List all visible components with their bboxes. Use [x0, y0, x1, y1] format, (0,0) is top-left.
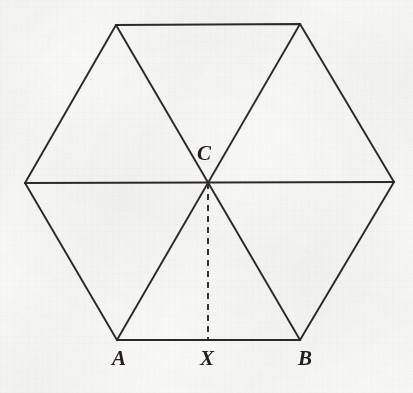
label-X: X [200, 348, 214, 369]
geometry-figure: C A X B [0, 0, 413, 393]
label-B: B [298, 348, 312, 369]
hexagon-diagram-svg [0, 0, 413, 393]
label-C: C [197, 143, 211, 164]
label-A: A [112, 348, 126, 369]
